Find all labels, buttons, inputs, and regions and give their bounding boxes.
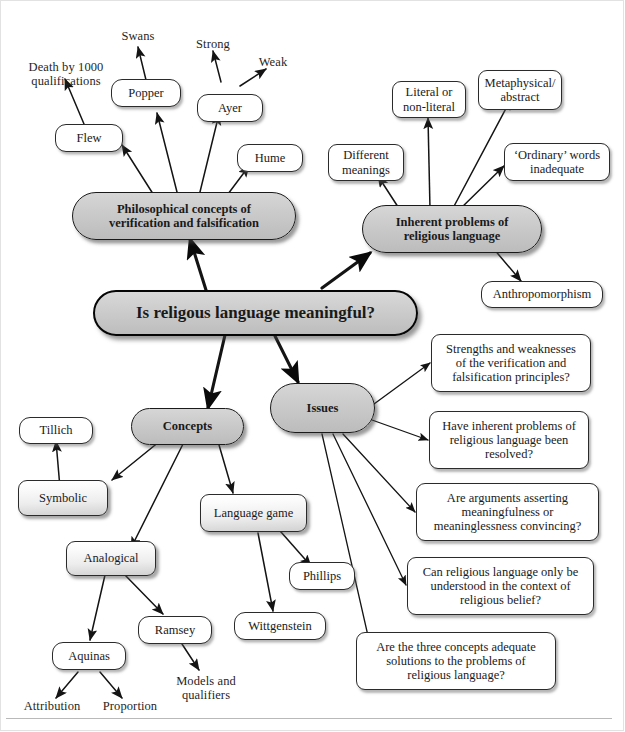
node-aquinas[interactable]: Aquinas — [52, 642, 126, 670]
edge-center-concepts — [208, 335, 225, 408]
edge-inherent-literal — [428, 118, 430, 209]
node-swans: Swans — [108, 28, 168, 45]
edge-verification-popper — [157, 113, 178, 196]
edge-issues-q-adequate — [322, 434, 371, 649]
edge-center-inherent — [322, 253, 370, 288]
edge-verification-ayer — [199, 114, 219, 196]
edge-concepts-analogical — [131, 440, 185, 548]
node-metaphysical-abstract[interactable]: Metaphysical/ abstract — [478, 70, 562, 110]
node-strong: Strong — [184, 36, 242, 53]
node-different-meanings[interactable]: Different meanings — [328, 144, 404, 181]
node-death-by-1000-qualifications: Death by 1000 qualifications — [14, 58, 118, 90]
node-weak: Weak — [248, 54, 298, 71]
node-anthropomorphism[interactable]: Anthropomorphism — [481, 281, 603, 308]
node-question-strengths-weaknesses[interactable]: Strengths and weaknesses of the verifica… — [431, 334, 591, 392]
edge-concepts-language-game — [217, 438, 233, 493]
node-flew[interactable]: Flew — [55, 124, 123, 152]
node-popper[interactable]: Popper — [111, 79, 181, 107]
edge-issues-q-resolved — [372, 420, 428, 440]
edge-verification-flew — [122, 145, 155, 197]
node-analogical[interactable]: Analogical — [66, 541, 156, 576]
edge-analogical-aquinas — [90, 575, 105, 640]
edge-aquinas-attribution — [56, 672, 78, 698]
edge-popper-swans — [138, 47, 146, 80]
edge-center-verification — [190, 239, 206, 290]
node-branch-issues[interactable]: Issues — [270, 383, 375, 433]
edge-analogical-ramsey — [125, 575, 163, 614]
edge-aquinas-proportion — [100, 672, 122, 698]
edge-issues-q-strengths — [374, 363, 430, 404]
node-question-religious-context[interactable]: Can religious language only be understoo… — [407, 557, 594, 615]
edge-center-issues — [275, 336, 298, 382]
node-phillips[interactable]: Phillips — [289, 562, 355, 590]
footer-rule — [6, 718, 612, 719]
node-hume[interactable]: Hume — [237, 144, 303, 172]
node-branch-concepts[interactable]: Concepts — [131, 408, 244, 445]
node-symbolic[interactable]: Symbolic — [18, 480, 108, 516]
edge-ayer-weak — [240, 69, 266, 86]
edge-ayer-strong — [213, 51, 221, 82]
node-question-arguments-convincing[interactable]: Are arguments asserting meaningfulness o… — [416, 483, 599, 541]
node-wittgenstein[interactable]: Wittgenstein — [234, 612, 326, 640]
node-language-game[interactable]: Language game — [200, 494, 307, 532]
node-central-question[interactable]: Is religous language meaningful? — [93, 290, 418, 336]
node-branch-inherent-problems[interactable]: Inherent problems of religious language — [362, 205, 542, 253]
node-proportion: Proportion — [92, 698, 168, 715]
node-ramsey[interactable]: Ramsey — [138, 616, 212, 644]
edge-language-game-phillips — [281, 532, 311, 566]
node-ordinary-words-inadequate[interactable]: ‘Ordinary’ words inadequate — [504, 143, 610, 181]
edge-ramsey-models — [182, 644, 199, 670]
node-models-and-qualifiers: Models and qualifiers — [166, 672, 246, 704]
node-ayer[interactable]: Ayer — [197, 94, 263, 122]
node-tillich[interactable]: Tillich — [19, 417, 93, 444]
edge-issues-q-convincing — [343, 434, 415, 512]
edge-language-game-wittgenstein — [258, 533, 273, 611]
node-question-problems-resolved[interactable]: Have inherent problems of religious lang… — [429, 411, 589, 469]
node-branch-verification[interactable]: Philosophical concepts of verification a… — [72, 192, 296, 240]
node-attribution: Attribution — [14, 698, 90, 715]
node-question-three-concepts-adequate[interactable]: Are the three concepts adequate solution… — [356, 632, 556, 690]
node-literal-or-non-literal[interactable]: Literal or non-literal — [392, 81, 466, 118]
